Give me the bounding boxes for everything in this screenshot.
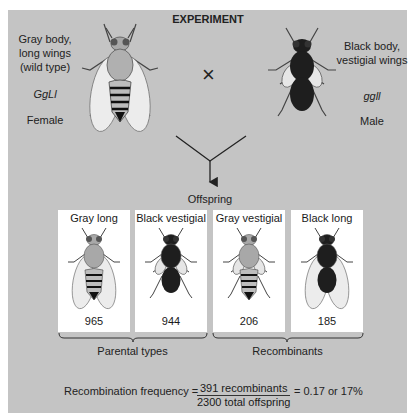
offspring-label: Offspring (180, 193, 240, 206)
cross-lines (176, 136, 246, 161)
gray-long-fly-icon (64, 228, 124, 312)
offspring-card: Black vestigial 944 (135, 210, 207, 332)
female-fly-icon (82, 24, 158, 134)
offspring-count: 185 (291, 315, 363, 327)
parental-brace (59, 333, 207, 342)
offspring-phenotype: Gray vestigial (213, 212, 285, 224)
parental-types-label: Parental types (90, 345, 175, 358)
formula-fraction: 391 recombinants 2300 total offspring (197, 382, 290, 408)
formula-numerator: 391 recombinants (197, 382, 290, 396)
gray-vestigial-fly-icon (219, 228, 279, 312)
formula-lhs: Recombination frequency = (64, 385, 198, 398)
formula-rhs: = 0.17 or 17% (294, 385, 363, 398)
offspring-card: Black long 185 (291, 210, 363, 332)
offspring-count: 206 (213, 315, 285, 327)
recombinant-brace (213, 333, 363, 342)
male-fly-icon (268, 28, 336, 116)
offspring-phenotype: Gray long (58, 212, 130, 224)
offspring-phenotype: Black long (291, 212, 363, 224)
black-long-fly-icon (297, 228, 357, 312)
offspring-count: 965 (58, 315, 130, 327)
formula-denominator: 2300 total offspring (197, 396, 290, 408)
black-vestigial-fly-icon (141, 228, 201, 312)
offspring-card: Gray long 965 (58, 210, 130, 332)
offspring-card: Gray vestigial 206 (213, 210, 285, 332)
offspring-phenotype: Black vestigial (135, 212, 207, 224)
offspring-count: 944 (135, 315, 207, 327)
recombinants-label: Recombinants (245, 345, 330, 358)
